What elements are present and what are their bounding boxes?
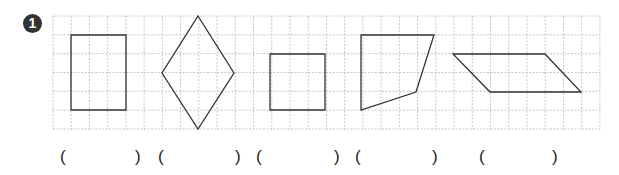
- answer-blank-5-close-paren: ): [552, 146, 558, 168]
- answer-blank-1-open-paren: (: [60, 146, 66, 168]
- answer-blank-5[interactable]: [487, 146, 550, 168]
- answer-blank-5-open-paren: (: [479, 146, 485, 168]
- answer-blank-2-open-paren: (: [158, 146, 164, 168]
- answer-blank-4[interactable]: [363, 146, 430, 168]
- answer-blank-3-open-paren: (: [256, 146, 262, 168]
- answer-blank-4-close-paren: ): [432, 146, 438, 168]
- answer-blank-3[interactable]: [264, 146, 332, 168]
- answer-blank-2[interactable]: [166, 146, 233, 168]
- answer-row: ()()()()(): [0, 146, 619, 168]
- answer-blank-1-close-paren: ): [135, 146, 141, 168]
- dotted-grid: [53, 16, 600, 129]
- answer-blank-1[interactable]: [68, 146, 133, 168]
- answer-blank-3-close-paren: ): [334, 146, 340, 168]
- answer-blank-2-close-paren: ): [235, 146, 241, 168]
- shape-square: [270, 54, 325, 110]
- answer-blank-4-open-paren: (: [355, 146, 361, 168]
